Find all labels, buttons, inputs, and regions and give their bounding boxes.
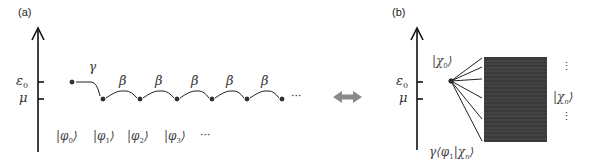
vertical-ellipsis-top: ⋮	[561, 62, 572, 72]
coupling-matrix-element: γ⟨φ1|χn⟩	[429, 145, 474, 161]
mu-tick-label-a: μ	[19, 90, 27, 105]
panel-a-label: (a)	[18, 6, 31, 18]
coupling-fan	[451, 58, 482, 141]
beta-label-3: β	[191, 73, 199, 88]
chain-bonds	[76, 82, 279, 98]
epsilon0-tick-label-b: ε0	[396, 73, 408, 90]
ket-chin: |χn⟩	[553, 90, 574, 106]
beta-label-5: β	[261, 73, 269, 88]
ket-phi0: |φ0⟩	[56, 129, 78, 145]
beta-label-4: β	[226, 73, 234, 88]
ket-chi0: |χ0⟩	[432, 54, 452, 70]
equivalence-double-arrow-icon	[333, 91, 362, 103]
panel-b-label: (b)	[392, 6, 405, 18]
impurity-site	[449, 79, 453, 83]
beta-label-1: β	[119, 73, 127, 88]
ket-phi2: |φ2⟩	[127, 129, 149, 145]
epsilon0-tick-label-a: ε0	[16, 73, 28, 90]
chain-sites	[70, 80, 284, 101]
energy-axis-a	[32, 28, 44, 152]
continuum-band	[484, 57, 547, 142]
vertical-ellipsis-bottom: ⋮	[561, 112, 572, 122]
gamma-coupling-label: γ	[89, 60, 96, 74]
energy-axis-b	[411, 28, 423, 150]
states-ellipsis: ···	[200, 129, 211, 142]
ket-phi1: |φ1⟩	[93, 129, 115, 145]
beta-label-2: β	[155, 73, 163, 88]
ket-phi3: |φ3⟩	[164, 129, 186, 145]
chain-ellipsis: ···	[291, 90, 302, 103]
mu-tick-label-b: μ	[399, 90, 407, 105]
diagram-graphics	[0, 0, 599, 168]
